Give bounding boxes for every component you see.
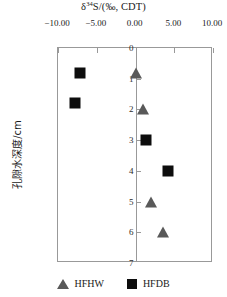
legend-label: HFHW <box>74 278 103 289</box>
x-axis-tick <box>174 48 175 53</box>
x-tick-label: 10.00 <box>202 18 222 28</box>
x-tick-label: −10.00 <box>44 18 69 28</box>
data-point-hfdb <box>163 165 174 176</box>
title-element: S/( <box>93 1 106 12</box>
title-permil-symbol: ‰ <box>105 1 115 12</box>
triangle-marker-icon <box>130 67 142 78</box>
title-tail: , CDT) <box>116 1 146 12</box>
y-tick-label: 2 <box>129 104 136 114</box>
y-axis-tick <box>137 232 141 233</box>
triangle-marker-icon <box>145 196 157 207</box>
x-tick-label: 5.00 <box>165 18 181 28</box>
x-tick-label: −5.00 <box>85 18 106 28</box>
legend-label: HFDB <box>143 278 170 289</box>
square-marker-icon <box>74 67 85 78</box>
legend-entry-hfdb[interactable]: HFDB <box>126 277 170 289</box>
y-tick-label: 7 <box>129 258 136 268</box>
data-point-hfdb <box>74 67 85 78</box>
x-tick-label: 0.00 <box>127 18 143 28</box>
triangle-legend-icon <box>57 277 69 289</box>
chart-legend: HFHWHFDB <box>0 272 227 294</box>
chart-title: δ34S/(‰, CDT) <box>0 1 227 12</box>
y-axis-label: 孔隙水深度/cm <box>8 47 24 262</box>
scatter-chart-figure: δ34S/(‰, CDT) −10.00−5.000.005.0010.00 孔… <box>0 0 227 297</box>
title-mass-number: 34 <box>86 0 93 7</box>
x-axis-tick <box>97 48 98 53</box>
triangle-glyph <box>57 279 69 289</box>
legend-entry-hfhw[interactable]: HFHW <box>57 277 103 289</box>
y-axis-tick <box>137 79 141 80</box>
y-tick-label: 0 <box>129 43 136 53</box>
y-axis-label-text: 孔隙水深度/cm <box>9 120 24 189</box>
data-point-hfdb <box>141 135 152 146</box>
depth-axis-line <box>136 48 137 261</box>
y-axis-tick <box>137 171 141 172</box>
y-tick-label: 5 <box>129 197 136 207</box>
triangle-marker-icon <box>157 227 169 238</box>
y-tick-label: 4 <box>129 166 136 176</box>
y-tick-label: 6 <box>129 227 136 237</box>
square-marker-icon <box>70 98 81 109</box>
x-axis-tick <box>213 48 214 53</box>
y-tick-label: 3 <box>129 135 136 145</box>
square-marker-icon <box>141 135 152 146</box>
x-axis-tick <box>58 48 59 53</box>
x-axis-tick-labels: −10.00−5.000.005.0010.00 <box>0 18 227 31</box>
square-marker-icon <box>163 165 174 176</box>
square-glyph <box>127 279 137 289</box>
data-point-hfdb <box>70 98 81 109</box>
plot-area: 01234567 <box>57 47 212 262</box>
square-legend-icon <box>126 277 138 289</box>
y-axis-tick <box>137 202 141 203</box>
triangle-marker-icon <box>137 104 149 115</box>
